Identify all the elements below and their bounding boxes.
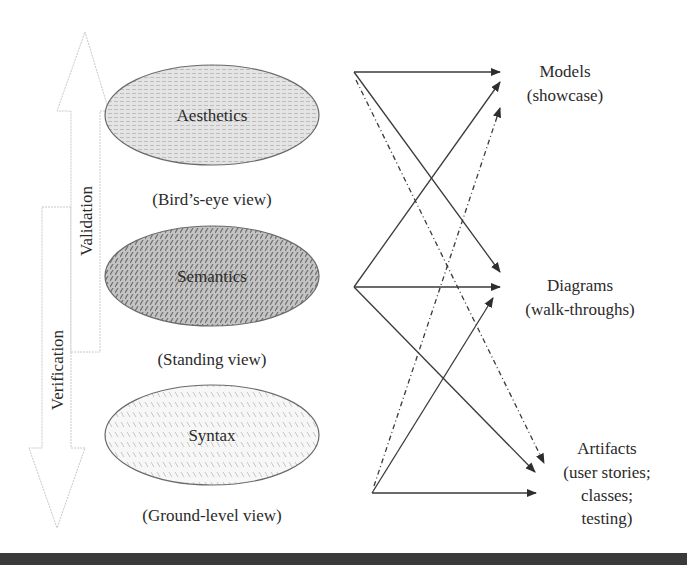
bottom-bar [0,553,687,565]
verification-label: Verification [48,329,67,410]
artifacts-line-3: classes; [581,486,633,505]
connection-arrows [354,72,544,493]
diagrams-title: Diagrams [547,276,613,295]
artifacts-line-4: testing) [582,509,633,528]
semantics-caption: (Standing view) [157,350,266,369]
quality-levels-diagram: Verification Validation Aesthetics (Bird… [0,0,687,565]
arrow-top-to-diagrams [354,72,500,272]
artifacts-line-2: (user stories; [563,463,650,482]
target-artifacts: Artifacts (user stories; classes; testin… [563,439,650,528]
target-diagrams: Diagrams (walk-throughs) [525,276,635,319]
arrow-bottom-to-diagrams [372,298,493,493]
syntax-label: Syntax [188,426,236,445]
aesthetics-label: Aesthetics [177,106,248,125]
target-models: Models (showcase) [527,62,603,105]
arrow-top-to-artifacts [356,80,544,463]
models-title: Models [540,62,591,81]
syntax-caption: (Ground-level view) [142,506,281,525]
level-semantics: Semantics (Standing view) [105,226,319,369]
arrow-middle-to-models [354,82,500,287]
level-syntax: Syntax (Ground-level view) [105,385,319,525]
level-aesthetics: Aesthetics (Bird’s-eye view) [105,65,319,209]
models-subtitle: (showcase) [527,86,603,105]
arrow-bottom-to-models [374,108,500,486]
semantics-label: Semantics [177,267,247,286]
validation-label: Validation [77,186,96,256]
aesthetics-caption: (Bird’s-eye view) [152,190,271,209]
artifacts-title: Artifacts [577,439,636,458]
arrow-middle-to-artifacts [354,287,535,472]
diagrams-subtitle: (walk-throughs) [525,300,635,319]
